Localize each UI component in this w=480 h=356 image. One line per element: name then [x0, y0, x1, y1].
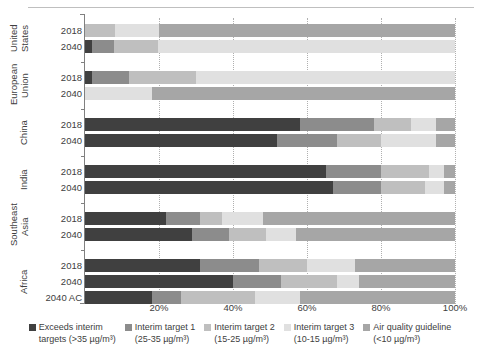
y-axis-group-tick: [81, 250, 85, 251]
bar-row: [85, 165, 455, 178]
bar-segment: [85, 24, 115, 37]
legend-item: Interim target 2 (15-25 µg/m³): [204, 322, 275, 345]
bar-segment: [444, 165, 455, 178]
bar-segment: [85, 71, 92, 84]
bar-segment: [333, 181, 381, 194]
bar-segment: [85, 228, 192, 241]
legend-swatch-icon: [125, 324, 132, 331]
bar-segment: [300, 118, 374, 131]
x-tick-label: 80%: [371, 302, 390, 313]
bar-segment: [85, 87, 152, 100]
bar-segment: [436, 134, 455, 147]
bar-segment: [115, 24, 159, 37]
year-label-2018: 2018: [26, 166, 82, 178]
bar-row: [85, 259, 455, 272]
bar-segment: [85, 40, 92, 53]
x-tick-label: 60%: [297, 302, 316, 313]
bar-segment: [381, 165, 429, 178]
y-axis-group-tick: [81, 156, 85, 157]
year-label-2040-ac: 2040 AC: [26, 292, 82, 304]
bar-segment: [222, 212, 263, 225]
bar-row: [85, 87, 455, 100]
legend-swatch-icon: [204, 324, 211, 331]
bar-segment: [425, 181, 444, 194]
bar-segment: [200, 259, 259, 272]
bar-segment: [85, 291, 152, 304]
year-label-2040: 2040: [26, 276, 82, 288]
year-label-2040: 2040: [26, 135, 82, 147]
legend-label: Interim target 3 (10-15 µg/m³): [294, 322, 355, 345]
bar-segment: [85, 181, 333, 194]
region-label-united-states: United States: [8, 19, 38, 58]
y-axis-group-tick: [81, 203, 85, 204]
bar-segment: [192, 228, 229, 241]
bar-segment: [359, 275, 455, 288]
year-label-2040: 2040: [26, 182, 82, 194]
legend-swatch-icon: [363, 324, 370, 331]
bar-segment: [85, 165, 326, 178]
bar-row: [85, 134, 455, 147]
chart-legend: Exceeds interim targets (>35 µg/m³)Inter…: [0, 322, 480, 345]
bar-segment: [166, 212, 199, 225]
y-axis-group-tick: [81, 62, 85, 63]
y-axis-group-tick: [81, 109, 85, 110]
bar-segment: [326, 165, 382, 178]
bar-row: [85, 228, 455, 241]
bar-segment: [255, 291, 299, 304]
bar-segment: [181, 291, 255, 304]
legend-swatch-icon: [29, 324, 36, 331]
bar-segment: [374, 118, 411, 131]
bar-segment: [436, 118, 455, 131]
region-label-africa: Africa: [18, 254, 32, 309]
bar-row: [85, 118, 455, 131]
bar-segment: [158, 40, 455, 53]
bar-segment: [381, 134, 437, 147]
bar-segment: [92, 71, 129, 84]
bar-segment: [355, 259, 455, 272]
y-axis-cap-top: [80, 14, 85, 15]
bar-row: [85, 71, 455, 84]
bar-segment: [429, 165, 444, 178]
bar-segment: [259, 259, 307, 272]
bar-segment: [85, 212, 166, 225]
x-tick-label: 100%: [443, 302, 467, 313]
legend-label: Exceeds interim targets (>35 µg/m³): [39, 322, 116, 345]
bar-segment: [266, 228, 296, 241]
bar-segment: [85, 259, 200, 272]
year-label-2018: 2018: [26, 119, 82, 131]
bar-segment: [196, 71, 455, 84]
bar-segment: [200, 212, 222, 225]
legend-item: Interim target 1 (25-35 µg/m³): [125, 322, 196, 345]
x-tick-label: 20%: [149, 302, 168, 313]
bar-segment: [307, 259, 355, 272]
bar-segment: [381, 181, 425, 194]
bar-segment: [281, 275, 337, 288]
region-label-china: China: [18, 113, 32, 152]
bar-segment: [277, 134, 336, 147]
bar-row: [85, 24, 455, 37]
bar-segment: [85, 134, 277, 147]
legend-item: Exceeds interim targets (>35 µg/m³): [29, 322, 116, 345]
bar-row: [85, 291, 455, 304]
bar-segment: [92, 40, 114, 53]
legend-label: Air quality guideline (<10 µg/m³): [373, 322, 451, 345]
legend-label: Interim target 1 (25-35 µg/m³): [135, 322, 196, 345]
bar-segment: [337, 275, 359, 288]
bar-row: [85, 275, 455, 288]
year-label-2018: 2018: [26, 260, 82, 272]
bar-segment: [337, 134, 381, 147]
region-label-india: India: [18, 160, 32, 199]
bar-segment: [233, 275, 281, 288]
bar-segment: [114, 40, 158, 53]
bar-segment: [444, 181, 455, 194]
region-label-european-union: European Union: [8, 66, 38, 105]
gridline-100pct: [455, 18, 456, 304]
plot-area: [85, 18, 455, 298]
bar-segment: [296, 228, 455, 241]
bar-row: [85, 212, 455, 225]
bar-segment: [129, 71, 196, 84]
bar-row: [85, 181, 455, 194]
legend-item: Interim target 3 (10-15 µg/m³): [284, 322, 355, 345]
bar-row: [85, 40, 455, 53]
legend-label: Interim target 2 (15-25 µg/m³): [214, 322, 275, 345]
